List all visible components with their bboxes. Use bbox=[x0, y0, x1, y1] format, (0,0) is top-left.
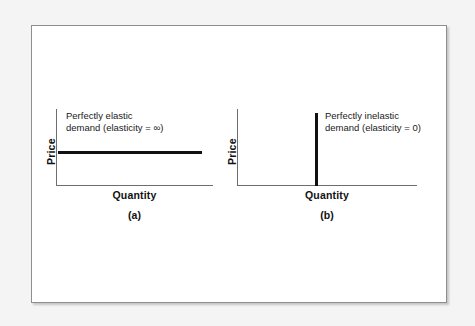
perfectly-inelastic-demand-curve bbox=[315, 113, 318, 186]
panel-a-annotation-line-2: demand (elasticity = ∞) bbox=[66, 122, 163, 134]
panel-a-annotation-line-1: Perfectly elastic bbox=[66, 110, 163, 122]
panel-a-quantity-axis-label: Quantity bbox=[56, 189, 213, 201]
panel-a-quantity-axis bbox=[56, 185, 213, 186]
panel-b-annotation-line-1: Perfectly inelastic bbox=[325, 110, 421, 122]
panel-b-quantity-axis-label: Quantity bbox=[237, 189, 417, 201]
panel-b-quantity-axis bbox=[237, 185, 417, 186]
perfectly-elastic-demand-curve bbox=[58, 151, 202, 154]
panel-b-annotation: Perfectly inelastic demand (elasticity =… bbox=[325, 110, 421, 134]
panel-b-caption: (b) bbox=[237, 209, 417, 221]
panel-a-perfectly-elastic: Perfectly elastic demand (elasticity = ∞… bbox=[32, 26, 240, 304]
panel-a-price-axis-label: Price bbox=[45, 138, 57, 165]
figure-root: Perfectly elastic demand (elasticity = ∞… bbox=[0, 0, 475, 326]
panel-a-annotation: Perfectly elastic demand (elasticity = ∞… bbox=[66, 110, 163, 134]
panel-b-price-axis-label: Price bbox=[226, 138, 238, 165]
panel-b-perfectly-inelastic: Perfectly inelastic demand (elasticity =… bbox=[237, 26, 448, 304]
panel-a-caption: (a) bbox=[56, 209, 213, 221]
figure-frame: Perfectly elastic demand (elasticity = ∞… bbox=[31, 25, 447, 303]
panel-b-annotation-line-2: demand (elasticity = 0) bbox=[325, 122, 421, 134]
